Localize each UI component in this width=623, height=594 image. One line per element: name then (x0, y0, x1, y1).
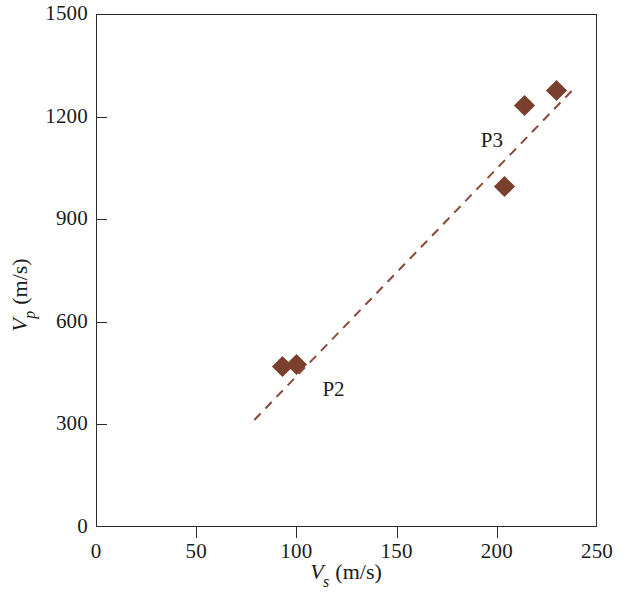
scatter-plot-figure: 030060090012001500 050100150200250 P2P3 … (0, 0, 623, 594)
y-axis-unit: (m/s) (7, 258, 32, 310)
series-label-p3: P3 (481, 130, 503, 151)
x-axis-unit: (m/s) (330, 559, 382, 584)
x-axis-tick (397, 527, 398, 538)
y-axis-tick-label: 900 (56, 208, 88, 229)
y-axis-tick (96, 117, 107, 118)
plot-area-frame (96, 14, 597, 527)
y-axis-tick-label: 0 (77, 516, 88, 537)
y-axis-variable: V (7, 318, 32, 331)
x-axis-tick-label: 0 (91, 541, 102, 562)
x-axis-tick-label: 200 (481, 541, 513, 562)
y-axis-tick-label: 1500 (45, 3, 88, 24)
x-axis-variable: V (310, 559, 323, 584)
y-axis-tick (96, 322, 107, 323)
y-axis-tick-label: 600 (56, 311, 88, 332)
x-axis-tick (196, 527, 197, 538)
x-axis-tick-label: 50 (185, 541, 206, 562)
y-axis-variable-subscript: p (21, 311, 38, 319)
x-axis-tick-label: 250 (581, 541, 613, 562)
y-axis-tick (96, 424, 107, 425)
x-axis-tick (296, 527, 297, 538)
x-axis-title: Vs (m/s) (310, 561, 382, 587)
y-axis-tick (96, 219, 107, 220)
series-label-p2: P2 (322, 379, 344, 400)
x-axis-variable-subscript: s (323, 573, 329, 590)
y-axis-tick-label: 1200 (45, 106, 88, 127)
y-axis-title: Vp (m/s) (9, 258, 35, 331)
x-axis-tick-label: 100 (280, 541, 312, 562)
x-axis-tick (497, 527, 498, 538)
y-axis-tick-label: 300 (56, 413, 88, 434)
x-axis-tick-label: 150 (381, 541, 413, 562)
